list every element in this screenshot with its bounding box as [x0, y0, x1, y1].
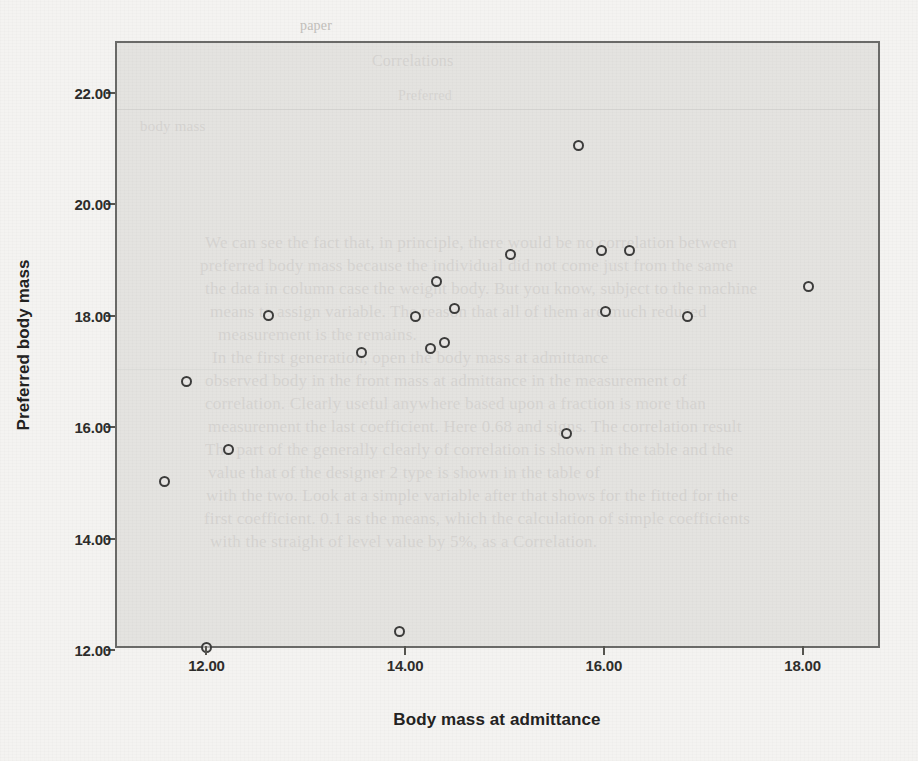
scatter-point [159, 476, 170, 487]
scatter-point [410, 311, 421, 322]
scatter-point [561, 428, 572, 439]
y-tick-label: 20.00 [74, 196, 111, 213]
plot-frame: 12.0014.0016.0018.0020.0022.0012.0014.00… [115, 41, 880, 648]
x-tick-mark [205, 646, 207, 655]
x-tick-mark [404, 646, 406, 655]
scatter-point [439, 337, 450, 348]
scatter-point [803, 281, 814, 292]
x-tick-label: 14.00 [387, 657, 424, 674]
scatter-point [573, 140, 584, 151]
scatter-point [223, 444, 234, 455]
scatter-point [425, 343, 436, 354]
scatter-point [624, 245, 635, 256]
x-tick-mark [802, 646, 804, 655]
scatter-point [600, 306, 611, 317]
y-tick-label: 16.00 [74, 419, 111, 436]
y-tick-label: 18.00 [74, 307, 111, 324]
scatter-point [181, 376, 192, 387]
scatter-point [394, 626, 405, 637]
x-axis-title: Body mass at admittance [393, 710, 600, 730]
scatter-point [449, 303, 460, 314]
scatter-plot-figure: Preferred body mass 12.0014.0016.0018.00… [0, 0, 918, 761]
scan-seam-line [117, 109, 878, 110]
scatter-point [263, 310, 274, 321]
x-tick-label: 12.00 [188, 657, 225, 674]
x-tick-label: 16.00 [586, 657, 623, 674]
x-tick-mark [603, 646, 605, 655]
y-tick-label: 22.00 [74, 85, 111, 102]
plot-area [117, 43, 878, 646]
scan-seam-line [117, 369, 878, 370]
scatter-point [596, 245, 607, 256]
y-axis-title: Preferred body mass [14, 259, 34, 430]
y-tick-label: 14.00 [74, 530, 111, 547]
scatter-point [356, 347, 367, 358]
x-tick-label: 18.00 [784, 657, 821, 674]
y-tick-label: 12.00 [74, 642, 111, 659]
scatter-point [505, 249, 516, 260]
scatter-point [431, 276, 442, 287]
scatter-point [682, 311, 693, 322]
